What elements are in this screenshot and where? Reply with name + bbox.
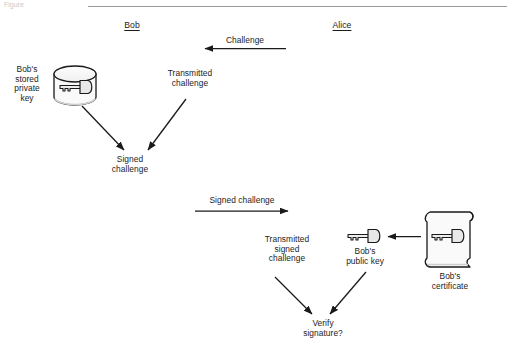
transmitted-signed-challenge-to-verify-arrow — [275, 277, 312, 314]
bobs-public-key-label: Bob's public key — [333, 247, 397, 266]
key-icon-public — [348, 230, 380, 243]
private-key-to-signed-challenge-arrow — [82, 106, 124, 150]
database-cylinder-icon — [54, 66, 96, 105]
bobs-stored-private-key-label: Bob's stored private key — [3, 65, 51, 103]
transmitted-challenge-label: Transmitted challenge — [150, 69, 230, 88]
certificate-scroll-icon — [425, 212, 473, 267]
bobs-certificate-label: Bob's certificate — [418, 272, 482, 291]
party-label-alice: Alice — [318, 21, 366, 31]
transmitted-signed-challenge-label: Transmitted signed challenge — [248, 235, 326, 264]
party-label-bob: Bob — [108, 21, 156, 31]
signed-challenge-result-label: Signed challenge — [98, 155, 162, 174]
signed-challenge-transfer-label: Signed challenge — [192, 196, 292, 206]
verify-signature-label: Verify signature? — [291, 319, 355, 338]
diagram-canvas — [0, 0, 507, 360]
transmitted-challenge-to-signed-challenge-arrow — [148, 99, 186, 150]
challenge-label: Challenge — [205, 36, 285, 46]
public-key-to-verify-arrow — [330, 272, 366, 314]
figure-container: Figure — [0, 0, 507, 360]
